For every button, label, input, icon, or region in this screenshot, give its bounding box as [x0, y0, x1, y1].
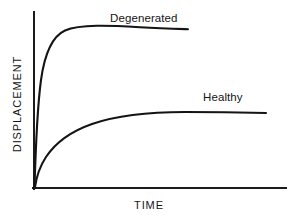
x-axis-label: TIME: [134, 199, 164, 211]
chart-svg: Degenerated Healthy TIME DISPLACEMENT: [0, 0, 300, 216]
chart-background: [0, 0, 300, 216]
y-axis-label: DISPLACEMENT: [11, 56, 23, 152]
series-label-degenerated: Degenerated: [110, 12, 178, 24]
creep-curve-figure: Degenerated Healthy TIME DISPLACEMENT: [0, 0, 300, 216]
series-label-healthy: Healthy: [203, 91, 243, 103]
